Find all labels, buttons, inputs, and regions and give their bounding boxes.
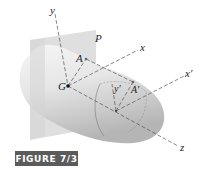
- label-y-prime: y′: [114, 84, 121, 94]
- label-g: G: [58, 81, 66, 92]
- label-p: P: [95, 33, 102, 44]
- figure-drawing: [0, 0, 210, 172]
- label-x-prime: x′: [185, 68, 192, 79]
- label-a: A: [76, 53, 83, 64]
- label-a-prime: A′: [131, 85, 139, 95]
- origin-prime: [115, 110, 117, 112]
- label-z: z: [180, 142, 184, 153]
- rigid-body-figure: y P x A G x′ y′ A′ z FIGURE 7/3: [0, 0, 210, 172]
- point-g: [66, 84, 70, 88]
- figure-caption: FIGURE 7/3: [15, 151, 78, 166]
- label-y: y: [50, 5, 55, 16]
- label-x: x: [140, 42, 145, 53]
- point-a-prime: [132, 81, 135, 84]
- point-a: [85, 58, 88, 61]
